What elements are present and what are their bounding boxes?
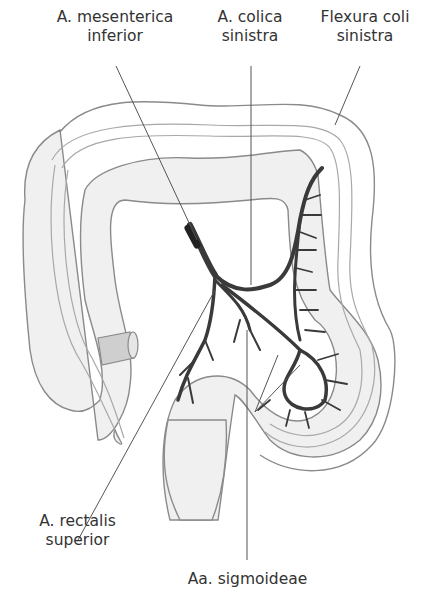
label-sigmoideae: Aa. sigmoideae — [180, 570, 315, 589]
label-rectalis-superior: A. rectalis superior — [20, 512, 135, 550]
colon — [23, 102, 395, 520]
label-mesenterica-inferior: A. mesenterica inferior — [30, 8, 200, 46]
label-flexura-coli-sinistra: Flexura coli sinistra — [305, 8, 425, 46]
label-colica-sinistra: A. colica sinistra — [200, 8, 300, 46]
